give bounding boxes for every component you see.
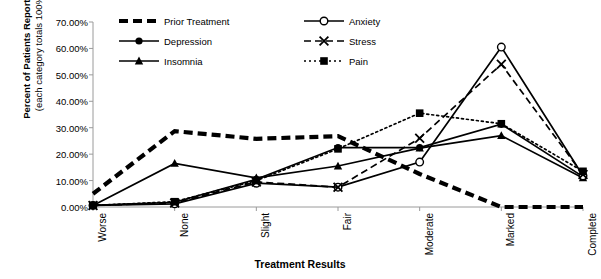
x-axis-tick-label: Fair <box>342 213 353 230</box>
legend-label: Anxiety <box>349 16 380 27</box>
legend-key-icon <box>303 15 345 27</box>
y-axis-title-main: Percent of Patients Reporting <box>21 0 32 119</box>
legend-item-pain: Pain <box>303 54 368 68</box>
legend-key-icon <box>303 55 345 67</box>
y-axis-tick-label: 0.00% <box>34 202 88 213</box>
legend-key-icon <box>118 35 160 47</box>
y-axis-tick-label: 30.00% <box>34 122 88 133</box>
legend-label: Depression <box>164 36 212 47</box>
x-axis-title: Treatment Results <box>190 258 410 270</box>
x-axis-tick-label: Moderate <box>424 213 435 255</box>
legend-key-icon <box>303 35 345 47</box>
line-chart: Percent of Patients Reporting (each cate… <box>0 0 601 279</box>
data-point-marker <box>579 168 587 176</box>
series-insomnia <box>89 131 587 209</box>
y-axis-tick-label: 20.00% <box>34 149 88 160</box>
data-point-marker <box>89 202 97 210</box>
series-pain <box>89 109 587 209</box>
data-point-marker <box>497 131 505 139</box>
data-point-marker <box>416 158 424 166</box>
legend-item-prior-treatment: Prior Treatment <box>118 14 229 28</box>
data-point-marker <box>498 120 506 128</box>
data-point-marker <box>170 159 178 167</box>
data-point-marker <box>416 109 424 117</box>
legend-marker <box>135 37 142 44</box>
legend-marker <box>320 57 328 65</box>
x-axis-tick-label: Complete <box>587 213 598 256</box>
data-point-marker <box>171 198 179 206</box>
chart-legend: Prior TreatmentDepressionInsomniaAnxiety… <box>118 14 448 74</box>
legend-item-insomnia: Insomnia <box>118 54 203 68</box>
y-axis-tick-label: 50.00% <box>34 69 88 80</box>
legend-item-depression: Depression <box>118 34 212 48</box>
y-axis-tick-label: 10.00% <box>34 175 88 186</box>
legend-label: Stress <box>349 36 376 47</box>
x-axis-tick-label: Worse <box>97 213 108 242</box>
legend-item-anxiety: Anxiety <box>303 14 380 28</box>
y-axis-tick-label: 40.00% <box>34 96 88 107</box>
data-point-marker <box>334 145 342 153</box>
legend-label: Pain <box>349 56 368 67</box>
data-point-marker <box>253 177 261 185</box>
data-point-marker <box>497 60 506 69</box>
legend-label: Prior Treatment <box>164 16 229 27</box>
y-axis-tick-label: 60.00% <box>34 43 88 54</box>
legend-key-icon <box>118 55 160 67</box>
legend-key-icon <box>118 15 160 27</box>
data-point-marker <box>415 134 424 143</box>
y-axis-tick-label: 70.00% <box>34 17 88 28</box>
x-axis-tick-label: Marked <box>505 213 516 246</box>
data-point-marker <box>498 43 506 51</box>
y-axis-ticks: 0.00%10.00%20.00%30.00%40.00%50.00%60.00… <box>32 0 88 279</box>
x-axis-tick-label: None <box>179 213 190 237</box>
legend-marker <box>320 17 328 25</box>
legend-label: Insomnia <box>164 56 203 67</box>
legend-item-stress: Stress <box>303 34 376 48</box>
x-axis-tick-label: Slight <box>260 213 271 238</box>
